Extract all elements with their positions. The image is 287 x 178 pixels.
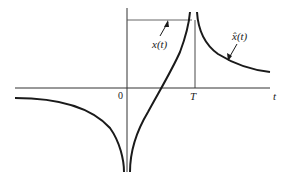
x-label-arrowhead [164, 20, 169, 27]
x-curve-label: x(t) [151, 38, 168, 51]
T-label: T [190, 90, 197, 102]
origin-label: 0 [118, 90, 123, 101]
x-hat-right-branch [197, 12, 270, 72]
t-axis-label: t [273, 90, 277, 102]
x-hat-left-branch [15, 98, 124, 172]
figure-canvas: x(t) x̂(t) 0 T t [0, 0, 287, 178]
x-hat-curve-label: x̂(t) [231, 30, 248, 43]
